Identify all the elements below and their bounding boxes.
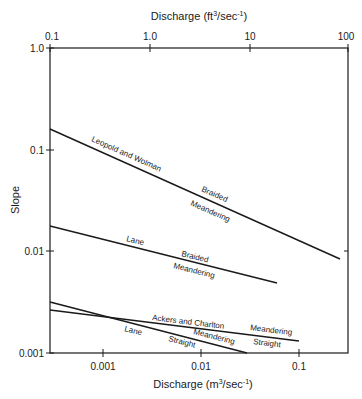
- bottom-tick-label: 0.001: [90, 361, 115, 372]
- top-axis-title: Discharge (ft3/sec-1): [151, 10, 247, 22]
- ackers-charlton-label: Ackers and Charlton: [152, 313, 225, 331]
- lane-straight-group-label: Lane: [124, 324, 144, 337]
- top-tick-label: 10: [244, 31, 256, 42]
- top-tick-label: 100: [338, 31, 355, 42]
- leopold-wolman-label: Leopold and Wolman: [90, 135, 163, 174]
- y-axis-title: Slope: [9, 186, 21, 214]
- y-tick-label: 0.001: [19, 348, 44, 359]
- bottom-axis-title: Discharge (m3/sec-1): [153, 378, 252, 390]
- lane-braided-line: [50, 226, 277, 283]
- bottom-tick-label: 0.01: [191, 361, 211, 372]
- leopold-braided-label: Braided: [200, 185, 229, 204]
- y-tick-label: 0.01: [25, 246, 45, 257]
- y-tick-label: 1.0: [30, 43, 44, 54]
- top-tick-label: 0.1: [45, 31, 59, 42]
- lane-straight-label: Straight: [168, 334, 198, 350]
- y-tick-label: 0.1: [30, 145, 44, 156]
- top-tick-label: 1.0: [143, 31, 157, 42]
- lane-meandering-label: Meandering: [173, 261, 216, 280]
- bottom-tick-label: 0.1: [292, 361, 306, 372]
- leopold-wolman-line: [50, 129, 340, 259]
- chart: Discharge (ft3/sec-1) 0.1 1.0 10 100 1.0…: [0, 0, 362, 399]
